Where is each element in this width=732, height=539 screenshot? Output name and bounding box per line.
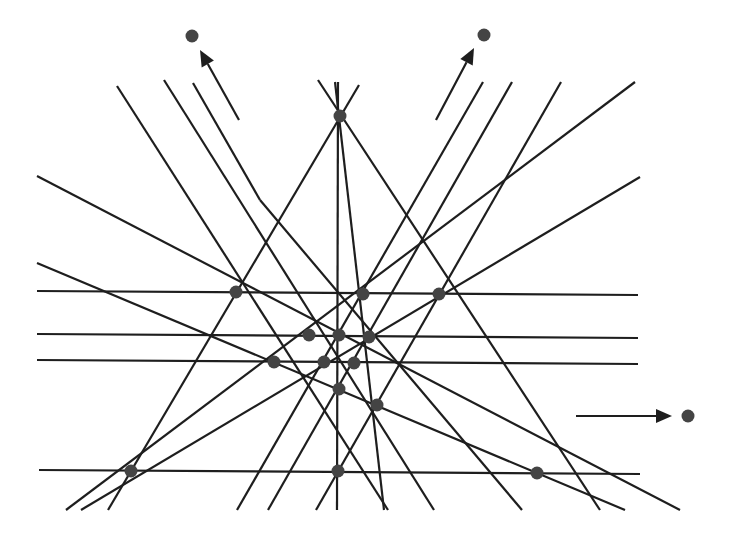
point-at-infinity-P3 <box>682 410 695 423</box>
point-K <box>371 399 384 412</box>
point-T <box>334 110 347 123</box>
point-N <box>531 467 544 480</box>
point-H <box>318 356 331 369</box>
line-4 <box>337 82 338 510</box>
point-I <box>348 357 361 370</box>
line-16 <box>66 82 635 510</box>
point-at-infinity-P2 <box>478 29 491 42</box>
point-F <box>363 331 376 344</box>
line-17 <box>81 177 640 510</box>
line-18 <box>260 200 522 510</box>
arrowhead-icon <box>656 409 672 423</box>
point-C <box>433 288 446 301</box>
arrow-shaft-P1 <box>208 64 239 120</box>
point-L <box>125 465 138 478</box>
point-E <box>333 329 346 342</box>
line-14 <box>268 82 512 510</box>
point-J <box>333 383 346 396</box>
point-at-infinity-P1 <box>186 30 199 43</box>
arrow-shaft-P2 <box>436 62 467 120</box>
line-9 <box>164 80 434 510</box>
points-layer <box>125 29 695 480</box>
point-G <box>268 356 281 369</box>
point-B <box>357 288 370 301</box>
arrowhead-icon <box>200 50 214 67</box>
line-arrangement-diagram <box>0 0 732 539</box>
point-D <box>303 329 316 342</box>
point-A <box>230 286 243 299</box>
point-M <box>332 465 345 478</box>
